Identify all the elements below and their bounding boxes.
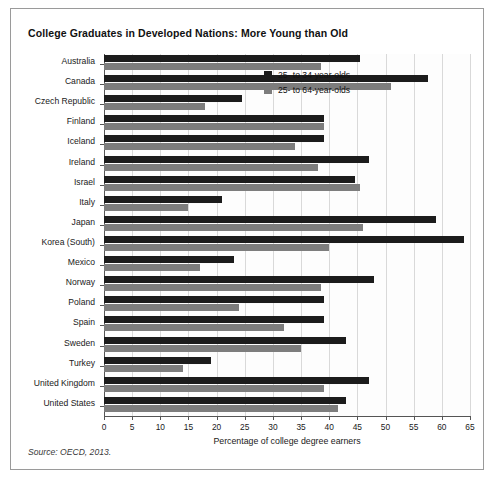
y-axis-label: Iceland: [67, 136, 95, 146]
bar-group: Ireland: [104, 155, 470, 175]
x-tick: [301, 416, 302, 420]
bar: [104, 357, 211, 364]
bar: [104, 216, 436, 223]
x-tick-label: 20: [212, 422, 221, 432]
x-tick: [160, 416, 161, 420]
y-axis-label: Norway: [66, 277, 95, 287]
bar-group: Italy: [104, 195, 470, 215]
legend: 25- to 34-year-olds25- to 64-year-olds: [264, 70, 350, 100]
x-tick: [414, 416, 415, 420]
bar-group: Iceland: [104, 134, 470, 154]
bar: [104, 63, 321, 70]
bar: [104, 135, 324, 142]
x-tick-label: 65: [465, 422, 474, 432]
bar: [104, 184, 360, 191]
bar: [104, 284, 321, 291]
bar: [104, 296, 324, 303]
bar: [104, 95, 242, 102]
bar-group: Japan: [104, 215, 470, 235]
y-axis-label: Canada: [65, 76, 95, 86]
x-axis-title: Percentage of college degree earners: [104, 436, 470, 446]
bar-group: United States: [104, 396, 470, 416]
bar: [104, 204, 188, 211]
x-tick-label: 60: [437, 422, 446, 432]
x-tick-label: 25: [240, 422, 249, 432]
x-tick-label: 5: [130, 422, 135, 432]
y-axis-label: United Kingdom: [34, 378, 95, 388]
x-tick: [188, 416, 189, 420]
gridline: [470, 54, 471, 416]
bar: [104, 164, 318, 171]
x-tick-label: 10: [156, 422, 165, 432]
x-tick: [386, 416, 387, 420]
bar-group: Mexico: [104, 255, 470, 275]
x-tick-label: 30: [268, 422, 277, 432]
legend-entry: 25- to 64-year-olds: [264, 85, 350, 95]
y-axis-label: United States: [43, 398, 95, 408]
bar-group: Korea (South): [104, 235, 470, 255]
x-tick: [470, 416, 471, 420]
x-tick: [357, 416, 358, 420]
y-axis-label: Israel: [74, 177, 95, 187]
bar: [104, 224, 363, 231]
bar: [104, 55, 360, 62]
x-tick: [217, 416, 218, 420]
chart-title: College Graduates in Developed Nations: …: [28, 27, 348, 39]
bar: [104, 365, 183, 372]
y-axis-label: Spain: [73, 317, 95, 327]
bar: [104, 276, 374, 283]
legend-label: 25- to 34-year-olds: [278, 70, 350, 80]
y-axis-label: Australia: [62, 56, 95, 66]
bar-group: Finland: [104, 114, 470, 134]
bar-group: United Kingdom: [104, 376, 470, 396]
y-axis-label: Czech Republic: [35, 96, 95, 106]
plot-region: AustraliaCanadaCzech RepublicFinlandIcel…: [104, 54, 470, 416]
bar: [104, 397, 346, 404]
x-axis-line: [104, 416, 470, 417]
bar: [104, 385, 324, 392]
bar: [104, 196, 222, 203]
y-axis-label: Japan: [72, 217, 95, 227]
y-axis-label: Sweden: [64, 338, 95, 348]
figure-frame: College Graduates in Developed Nations: …: [10, 8, 484, 470]
x-tick: [104, 416, 105, 420]
y-axis-label: Poland: [68, 297, 95, 307]
bar: [104, 377, 369, 384]
legend-entry: 25- to 34-year-olds: [264, 70, 350, 80]
bar-group: Sweden: [104, 336, 470, 356]
bar: [104, 337, 346, 344]
bar-group: Poland: [104, 295, 470, 315]
bar: [104, 244, 329, 251]
x-tick-label: 15: [184, 422, 193, 432]
y-axis-label: Mexico: [68, 257, 95, 267]
y-axis-label: Korea (South): [41, 237, 95, 247]
bar: [104, 405, 338, 412]
bar: [104, 103, 205, 110]
x-tick-label: 0: [102, 422, 107, 432]
x-tick-label: 45: [353, 422, 362, 432]
y-axis-label: Turkey: [69, 358, 95, 368]
bar-group: Norway: [104, 275, 470, 295]
x-tick: [273, 416, 274, 420]
y-axis-label: Italy: [79, 197, 95, 207]
bar-group: Spain: [104, 315, 470, 335]
bar: [104, 256, 234, 263]
bar: [104, 176, 355, 183]
legend-swatch: [264, 71, 272, 79]
y-axis-label: Ireland: [69, 157, 95, 167]
legend-label: 25- to 64-year-olds: [278, 85, 350, 95]
x-tick: [245, 416, 246, 420]
bar: [104, 236, 464, 243]
x-tick-label: 35: [296, 422, 305, 432]
x-tick: [442, 416, 443, 420]
bar: [104, 324, 284, 331]
y-axis-label: Finland: [67, 116, 95, 126]
bar: [104, 123, 324, 130]
x-tick-label: 40: [325, 422, 334, 432]
source-note: Source: OECD, 2013.: [28, 447, 111, 457]
bar: [104, 143, 295, 150]
legend-swatch: [264, 86, 272, 94]
x-tick-label: 55: [409, 422, 418, 432]
x-tick-label: 50: [381, 422, 390, 432]
x-tick: [329, 416, 330, 420]
